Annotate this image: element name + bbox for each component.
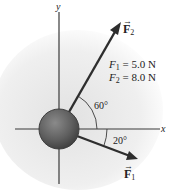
force-diagram: y x →F2 →F1 F1 = 5.0 N F2 = 8.0 N 60° 20… (0, 0, 175, 192)
arrowhead-f2-icon (110, 22, 121, 35)
f2-vector-label: →F2 (123, 23, 134, 37)
angle-label-60: 60° (94, 101, 108, 111)
sphere-object (39, 109, 79, 149)
background-glow (0, 30, 163, 190)
angle-label-20: 20° (113, 136, 127, 146)
vector-arrow-icon: → (124, 162, 133, 171)
diagram-canvas (0, 0, 175, 192)
x-axis-label: x (161, 124, 165, 134)
given-f2: F2 = 8.0 N (109, 72, 156, 85)
y-axis-label: y (56, 2, 60, 12)
vector-arrow-icon: → (123, 17, 132, 26)
f1-vector-label: →F1 (124, 168, 135, 182)
